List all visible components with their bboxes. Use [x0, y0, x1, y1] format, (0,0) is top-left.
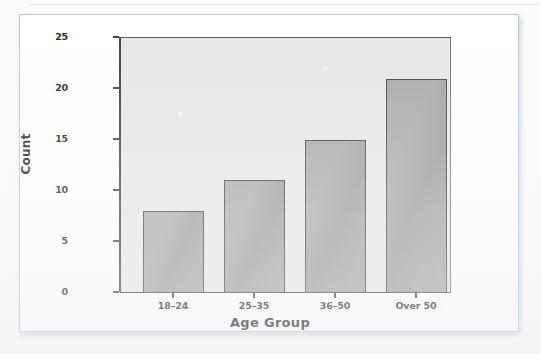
bars-layer	[121, 38, 450, 292]
y-tick-label-0: 0	[28, 286, 68, 297]
bar-grain	[387, 80, 446, 292]
bar-grain	[306, 141, 365, 292]
bar-36-50[interactable]	[305, 140, 366, 292]
y-tick-label-25: 25	[28, 31, 68, 42]
bar-chart: 0 5 10 15 20 25 Count 18–24 25–35 36–50 …	[20, 15, 520, 333]
x-tick-36-50	[334, 292, 336, 298]
x-tick-label-over-50: Over 50	[376, 300, 456, 311]
x-tick-label-18-24: 18–24	[133, 300, 213, 311]
x-tick-over-50	[415, 292, 417, 298]
y-tick-label-5: 5	[28, 235, 68, 246]
figure-card: 0 5 10 15 20 25 Count 18–24 25–35 36–50 …	[19, 14, 519, 332]
scan-artifact-line	[30, 4, 538, 5]
x-tick-18-24	[172, 292, 174, 298]
x-tick-label-36-50: 36–50	[295, 300, 375, 311]
x-tick-25-35	[253, 292, 255, 298]
bar-over-50[interactable]	[386, 79, 447, 292]
y-tick-10	[113, 189, 119, 191]
y-axis-line	[119, 37, 121, 292]
y-tick-label-20: 20	[28, 82, 68, 93]
y-tick-5	[113, 240, 119, 242]
bar-grain	[144, 212, 203, 292]
bar-grain	[225, 181, 284, 292]
plot-area	[120, 37, 451, 293]
y-tick-label-15: 15	[28, 133, 68, 144]
y-tick-0	[113, 291, 119, 293]
bar-18-24[interactable]	[143, 211, 204, 292]
y-tick-label-10: 10	[28, 184, 68, 195]
x-axis-title: Age Group	[20, 315, 520, 330]
bar-25-35[interactable]	[224, 180, 285, 292]
y-tick-20	[113, 87, 119, 89]
y-tick-15	[113, 138, 119, 140]
x-tick-label-25-35: 25–35	[214, 300, 294, 311]
y-axis-title: Count	[19, 134, 33, 175]
y-tick-25	[113, 36, 119, 38]
